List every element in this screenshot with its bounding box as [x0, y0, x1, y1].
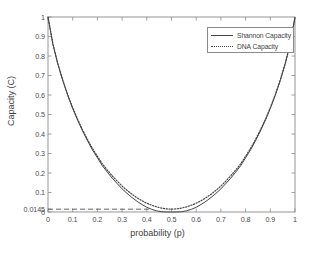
x-tick-label: 0 — [36, 215, 60, 224]
legend-swatch-solid-line-icon — [211, 35, 233, 37]
legend-item-dna-capacity[interactable]: DNA Capacity — [211, 41, 278, 52]
x-axis-label: probability (p) — [0, 228, 315, 238]
x-tick-label: 0.9 — [258, 215, 282, 224]
y-tick-label: 0.9 — [35, 32, 45, 41]
x-tick-label: 0.5 — [160, 215, 184, 224]
legend-item-shannon-capacity[interactable]: Shannon Capacity — [211, 30, 291, 41]
x-tick-label: 0.3 — [110, 215, 134, 224]
x-tick-label: 0.7 — [209, 215, 233, 224]
x-tick-label: 0.1 — [61, 215, 85, 224]
y-tick-label: 0.4 — [35, 130, 45, 139]
y-tick-label: 1 — [41, 13, 45, 22]
y-tick-label: 0.6 — [35, 91, 45, 100]
x-tick-label: 0.8 — [234, 215, 258, 224]
figure-canvas: 00.01450.10.20.30.40.50.60.70.80.91 00.1… — [0, 0, 315, 261]
y-tick-label: 0.8 — [35, 52, 45, 61]
y-tick-label: 0.7 — [35, 71, 45, 80]
y-tick-label: 0.1 — [35, 188, 45, 197]
x-tick-label: 0.2 — [85, 215, 109, 224]
legend-label-dna-capacity: DNA Capacity — [237, 43, 278, 50]
y-tick-label: 0.0145 — [24, 205, 45, 214]
y-axis-label: Capacity (C) — [6, 46, 16, 156]
y-tick-label: 0.2 — [35, 169, 45, 178]
x-tick-label: 0.6 — [184, 215, 208, 224]
y-tick-label: 0.3 — [35, 149, 45, 158]
legend-swatch-dotted-line-icon — [211, 46, 233, 48]
legend[interactable]: Shannon Capacity DNA Capacity — [207, 27, 294, 53]
x-tick-label: 0.4 — [135, 215, 159, 224]
x-tick-label: 1 — [283, 215, 307, 224]
y-tick-label: 0.5 — [35, 110, 45, 119]
legend-label-shannon-capacity: Shannon Capacity — [237, 32, 291, 39]
